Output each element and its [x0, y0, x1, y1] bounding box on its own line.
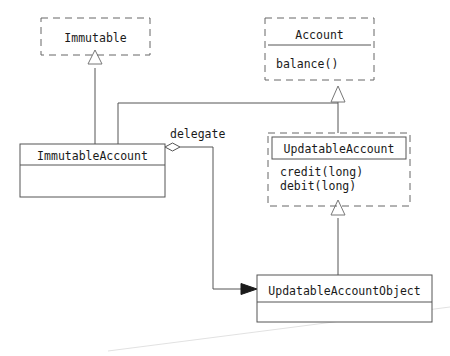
connector-updatableaccount-to-account	[331, 86, 345, 133]
diagram-canvas: Immutable Account balance() ImmutableAcc…	[0, 0, 450, 356]
class-name-immutable-account: ImmutableAccount	[37, 149, 148, 163]
class-name-immutable: Immutable	[64, 31, 126, 45]
connector-delegate	[165, 143, 257, 295]
class-box-updatable-account[interactable]: UpdatableAccount credit(long) debit(long…	[268, 133, 410, 206]
uml-class-diagram: Immutable Account balance() ImmutableAcc…	[0, 0, 450, 356]
class-name-account: Account	[295, 28, 343, 42]
connector-immutableaccount-to-immutable	[88, 50, 102, 144]
class-member-updatable-account-debit: debit(long)	[280, 179, 356, 193]
class-member-account-balance: balance()	[276, 57, 338, 71]
association-label-delegate: delegate	[170, 127, 225, 141]
class-name-updatable-account-object: UpdatableAccountObject	[268, 284, 420, 298]
class-box-immutable-account[interactable]: ImmutableAccount	[20, 144, 165, 197]
class-member-updatable-account-credit: credit(long)	[280, 165, 363, 179]
class-box-immutable[interactable]: Immutable	[41, 18, 150, 55]
delegate-arrowhead	[241, 284, 257, 295]
connector-updatableaccountobject-to-updatableaccount	[331, 200, 345, 275]
class-box-account[interactable]: Account balance()	[265, 18, 374, 80]
class-name-updatable-account: UpdatableAccount	[284, 142, 395, 156]
class-box-updatable-account-object[interactable]: UpdatableAccountObject	[257, 275, 432, 322]
aggregation-diamond	[165, 143, 180, 151]
connector-immutableaccount-to-account	[118, 103, 338, 144]
